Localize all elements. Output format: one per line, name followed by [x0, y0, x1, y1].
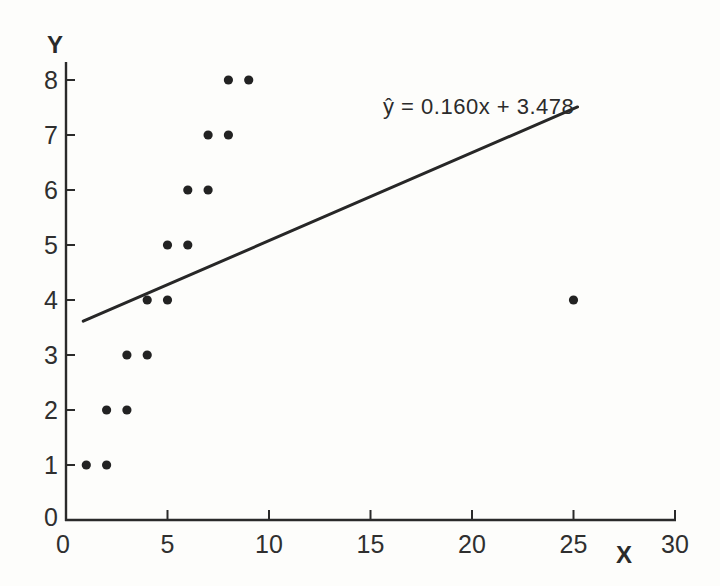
- data-point: [204, 130, 213, 139]
- x-tick-label: 30: [661, 530, 689, 558]
- y-tick-label: 0: [44, 503, 58, 531]
- x-axis-title: X: [616, 543, 633, 567]
- y-tick-label: 4: [44, 286, 58, 314]
- x-tick-label: 5: [161, 530, 175, 558]
- data-point: [122, 350, 131, 359]
- x-tick-label: 0: [56, 530, 70, 558]
- data-point: [102, 405, 111, 414]
- data-point: [183, 240, 192, 249]
- x-tick-label: 25: [560, 530, 588, 558]
- data-point: [163, 295, 172, 304]
- x-tick-label: 10: [255, 530, 283, 558]
- y-tick-label: 8: [44, 66, 58, 94]
- data-point: [102, 460, 111, 469]
- data-point: [224, 130, 233, 139]
- x-tick-label: 20: [458, 530, 486, 558]
- x-tick-label: 15: [357, 530, 385, 558]
- y-tick-label: 2: [44, 396, 58, 424]
- regression-line: [83, 107, 577, 321]
- y-tick-label: 1: [44, 451, 58, 479]
- y-tick-label: 6: [44, 176, 58, 204]
- scatter-plot-figure: 051015202530012345678 Y X ŷ = 0.160x + 3…: [0, 0, 720, 586]
- plot-canvas: 051015202530012345678: [0, 0, 720, 586]
- data-point: [224, 75, 233, 84]
- data-point: [143, 295, 152, 304]
- y-tick-label: 7: [44, 121, 58, 149]
- data-point: [122, 405, 131, 414]
- data-point: [82, 460, 91, 469]
- data-point: [244, 75, 253, 84]
- regression-equation-label: ŷ = 0.160x + 3.478: [383, 96, 574, 118]
- data-point: [204, 185, 213, 194]
- data-point: [183, 185, 192, 194]
- data-point: [143, 350, 152, 359]
- y-tick-label: 3: [44, 341, 58, 369]
- data-point: [163, 240, 172, 249]
- data-point: [569, 295, 578, 304]
- y-axis-title: Y: [47, 33, 64, 57]
- y-tick-label: 5: [44, 231, 58, 259]
